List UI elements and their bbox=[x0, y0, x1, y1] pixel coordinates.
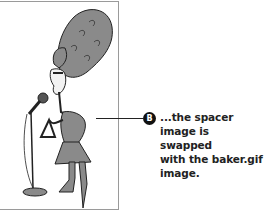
callout-badge: B bbox=[143, 112, 156, 125]
callout-caption: ...the spacer image is swapped with the … bbox=[160, 110, 264, 180]
caption-line: image. bbox=[160, 166, 264, 180]
caption-line: ...the spacer bbox=[160, 110, 264, 124]
caption-line: with the baker.gif bbox=[160, 152, 264, 166]
image-frame bbox=[0, 1, 119, 210]
callout-leader-line bbox=[96, 118, 143, 119]
caption-line: image is swapped bbox=[160, 124, 264, 152]
baker-illustration-icon bbox=[0, 2, 120, 213]
